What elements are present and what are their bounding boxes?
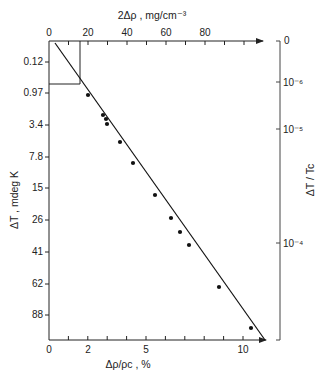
data-point (217, 285, 221, 289)
bottom-tick-5: 5 (143, 344, 149, 355)
data-point (86, 93, 90, 97)
left-tick-0.12: 0.12 (24, 56, 44, 67)
right-tick-0: 0 (284, 35, 290, 46)
fit-line (55, 43, 265, 340)
right-axis-title: ΔT / Tc (304, 164, 316, 196)
data-points (86, 93, 253, 330)
bottom-tick-10: 10 (237, 344, 249, 355)
reference-box (49, 41, 80, 84)
top-axis: 0 20 40 60 80 2Δρ , mg/cm⁻³ (46, 9, 263, 45)
top-axis-title: 2Δρ , mg/cm⁻³ (118, 9, 187, 21)
left-tick-88: 88 (32, 309, 44, 320)
data-point (187, 243, 191, 247)
left-axis-title: ΔT , mdeg K (8, 171, 20, 229)
bottom-axis-title: Δρ/ρc , % (105, 358, 150, 370)
left-axis: 0.12 0.97 3.4 7.8 15 26 41 62 88 ΔT , md… (8, 41, 49, 340)
left-tick-3.4: 3.4 (29, 119, 43, 130)
bottom-tick-2: 2 (85, 344, 91, 355)
data-point (101, 113, 105, 117)
left-tick-26: 26 (32, 214, 44, 225)
left-tick-41: 41 (32, 246, 44, 257)
right-tick-1e-4: 10⁻⁴ (283, 238, 303, 249)
right-tick-1e-6: 10⁻⁶ (283, 77, 303, 88)
right-axis: 0 10⁻⁶ 10⁻⁵ 10⁻⁴ ΔT / Tc (276, 35, 316, 340)
data-point (153, 193, 157, 197)
left-tick-0.97: 0.97 (24, 87, 44, 98)
data-point (178, 230, 182, 234)
left-tick-62: 62 (32, 278, 44, 289)
chart-figure: 0 20 40 60 80 2Δρ , mg/cm⁻³ 0.12 0.97 3.… (0, 0, 329, 376)
top-tick-20: 20 (82, 27, 94, 38)
data-point (118, 140, 122, 144)
top-tick-60: 60 (160, 27, 172, 38)
data-point (105, 122, 109, 126)
right-tick-1e-5: 10⁻⁵ (283, 124, 303, 135)
bottom-tick-0: 0 (46, 344, 52, 355)
top-tick-80: 80 (199, 27, 211, 38)
left-tick-7.8: 7.8 (29, 151, 43, 162)
bottom-axis: 0 2 5 10 Δρ/ρc , % (46, 336, 266, 370)
data-point (131, 161, 135, 165)
data-point (169, 216, 173, 220)
data-point (104, 117, 108, 121)
top-tick-40: 40 (121, 27, 133, 38)
left-tick-15: 15 (32, 182, 44, 193)
data-point (249, 326, 253, 330)
top-tick-0: 0 (46, 27, 52, 38)
